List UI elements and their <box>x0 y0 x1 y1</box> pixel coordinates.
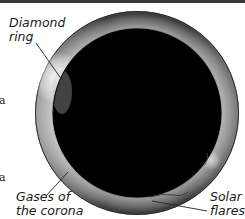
label-corona-line2: the corona <box>16 204 83 218</box>
label-diamond-ring-line2: ring <box>9 30 65 44</box>
label-solar-flares: Solar flares <box>210 190 245 218</box>
label-diamond-ring: Diamond ring <box>9 16 65 44</box>
label-diamond-ring-line1: Diamond <box>9 16 65 30</box>
cropped-text-fragment: a <box>0 171 6 184</box>
moon-disc <box>53 29 221 197</box>
inner-glow <box>52 70 72 114</box>
label-solar-flares-line2: flares <box>210 204 245 218</box>
label-solar-flares-line1: Solar <box>210 190 245 204</box>
label-corona-line1: Gases of <box>16 190 83 204</box>
label-gases-of-the-corona: Gases of the corona <box>16 190 83 218</box>
cropped-text-fragment: a <box>0 94 6 107</box>
